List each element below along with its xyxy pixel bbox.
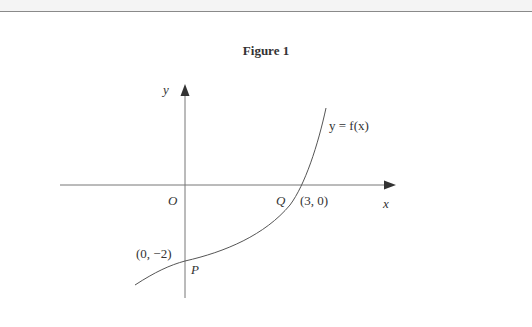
point-q-label: Q (276, 193, 286, 208)
y-axis-arrow-icon (181, 84, 190, 96)
origin-label: O (168, 193, 178, 208)
curve-label: y = f(x) (329, 118, 369, 133)
point-p-coords: (0, −2) (136, 246, 172, 261)
x-axis-label: x (382, 196, 389, 211)
point-q-coords: (3, 0) (300, 193, 328, 208)
graph: y x O y = f(x) Q (3, 0) (0, −2) P (0, 0, 532, 327)
point-p-label: P (190, 262, 199, 277)
y-axis-label: y (161, 82, 169, 97)
x-axis-arrow-icon (384, 181, 396, 190)
